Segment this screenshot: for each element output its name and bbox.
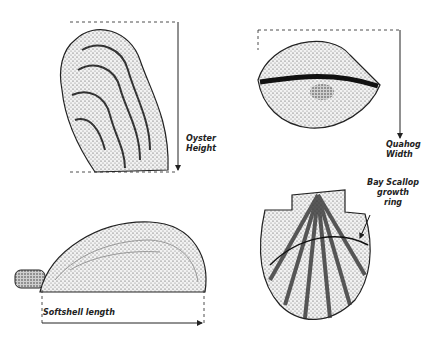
softshell-illustration [15, 222, 206, 292]
scallop-illustration [260, 190, 370, 319]
scallop-growth-ring-label: Bay Scallop growth ring [358, 178, 428, 208]
quahog-label-line2: Width [386, 150, 421, 160]
oyster-label-line1: Oyster [186, 134, 216, 144]
diagram-canvas [0, 0, 432, 347]
scallop-label-line2: growth [358, 188, 428, 198]
oyster-label-line2: Height [186, 144, 216, 154]
oyster-illustration [61, 30, 169, 172]
oyster-height-label: Oyster Height [186, 134, 216, 154]
quahog-width-label: Quahog Width [386, 140, 421, 160]
quahog-illustration [258, 41, 380, 128]
quahog-label-line1: Quahog [386, 140, 421, 150]
scallop-label-line3: ring [358, 198, 428, 208]
softshell-length-label: Softshell length [43, 308, 115, 318]
scallop-label-line1: Bay Scallop [358, 178, 428, 188]
